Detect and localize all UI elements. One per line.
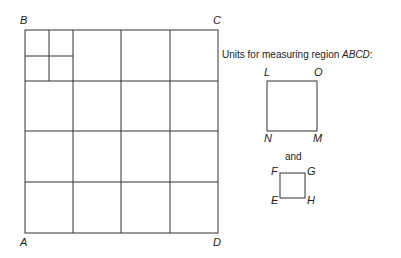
small-unit-square [280,173,305,198]
caption: Units for measuring region ABCD: [222,50,373,60]
label-n: N [264,133,272,144]
corner-label-a: A [20,237,27,248]
label-l: L [264,67,270,78]
label-m: M [313,133,322,144]
region-name: ABCD [342,49,370,60]
corner-label-b: B [20,15,27,26]
label-f: F [271,166,278,177]
label-g: G [307,166,316,177]
corner-label-c: C [213,15,221,26]
label-h: H [307,195,315,206]
label-o: O [314,67,323,78]
large-unit-square [267,81,317,131]
connector-and: and [285,152,302,162]
label-e: E [271,195,278,206]
corner-label-d: D [213,237,221,248]
measurement-diagram [0,0,401,258]
